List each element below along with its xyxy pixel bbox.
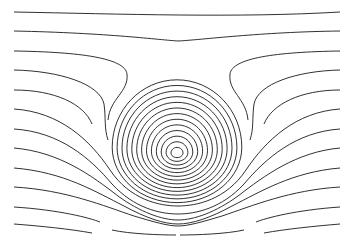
closed-contour (122, 91, 232, 195)
closed-contour (132, 102, 222, 187)
streamline (14, 70, 108, 140)
streamline (14, 12, 340, 15)
streamline (230, 51, 340, 120)
streamline (250, 70, 340, 140)
closed-contour (142, 114, 213, 181)
closed-vortex-contours (112, 80, 242, 203)
open-streamlines-lower (14, 109, 340, 235)
closed-contour (166, 142, 188, 162)
streamline (264, 224, 340, 233)
streamline (180, 230, 244, 235)
streamline (256, 207, 340, 222)
streamline (14, 51, 127, 120)
streamline (14, 207, 100, 222)
streamline (14, 31, 340, 41)
closed-contour (171, 147, 183, 157)
streamline (112, 230, 176, 235)
open-streamlines-upper (14, 12, 340, 140)
streamline (14, 224, 92, 233)
streamline-diagram (0, 0, 356, 245)
